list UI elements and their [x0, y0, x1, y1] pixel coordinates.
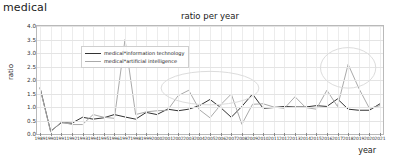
x-tick-label: 1995 — [98, 136, 109, 141]
legend-item[interactable]: medical*artificial intelligence — [85, 57, 184, 65]
x-tick-label: 2019 — [353, 136, 364, 141]
x-tick-label: 2011 — [268, 136, 279, 141]
x-tick-label: 2017 — [332, 136, 343, 141]
x-tick-label: 1993 — [77, 136, 88, 141]
x-tick-label: 2021 — [375, 136, 386, 141]
annotation-ellipse — [321, 48, 376, 89]
y-tick-label: 2.0 — [2, 77, 36, 83]
x-tick-label: 2018 — [343, 136, 354, 141]
x-tick-label: 2012 — [279, 136, 290, 141]
x-tick-label: 2002 — [173, 136, 184, 141]
x-tick-label: 2013 — [290, 136, 301, 141]
annotation-ellipses — [37, 26, 383, 134]
x-tick-label: 1990 — [45, 136, 56, 141]
plot-area: medical*information technologymedical*ar… — [36, 25, 384, 135]
x-axis-label: year — [36, 146, 384, 155]
x-tick-label: 1997 — [120, 136, 131, 141]
x-tick-label: 2009 — [247, 136, 258, 141]
chart-figure: ratio per year ratio 0.00.51.01.52.02.53… — [0, 8, 396, 156]
y-tick-label: 1.0 — [2, 104, 36, 110]
x-tick-label: 2016 — [321, 136, 332, 141]
legend-line-swatch — [85, 53, 101, 54]
x-tick-label: 2008 — [236, 136, 247, 141]
y-axis-ticks: 0.00.51.01.52.02.53.03.54.0 — [0, 25, 36, 135]
x-tick-label: 1996 — [109, 136, 120, 141]
x-tick-label: 2004 — [194, 136, 205, 141]
x-tick-label: 2014 — [300, 136, 311, 141]
y-tick-label: 0.0 — [2, 131, 36, 137]
x-tick-label: 2015 — [311, 136, 322, 141]
x-tick-label: 2003 — [183, 136, 194, 141]
x-tick-label: 1991 — [56, 136, 67, 141]
x-tick-label: 1989 — [35, 136, 46, 141]
y-tick-label: 3.5 — [2, 37, 36, 43]
y-tick-label: 3.0 — [2, 50, 36, 56]
x-tick-label: 2005 — [205, 136, 216, 141]
x-tick-label: 2006 — [215, 136, 226, 141]
legend-label: medical*information technology — [104, 50, 184, 56]
x-tick-label: 1992 — [66, 136, 77, 141]
x-tick-label: 1994 — [88, 136, 99, 141]
y-tick-label: 4.0 — [2, 23, 36, 29]
x-tick-label: 2001 — [162, 136, 173, 141]
y-tick-label: 1.5 — [2, 91, 36, 97]
chart-title: ratio per year — [36, 11, 384, 21]
y-tick-label: 2.5 — [2, 64, 36, 70]
x-tick-label: 1998 — [130, 136, 141, 141]
legend-line-swatch — [85, 61, 101, 62]
x-tick-label: 2010 — [258, 136, 269, 141]
x-tick-label: 2007 — [226, 136, 237, 141]
chart-legend: medical*information technologymedical*ar… — [81, 46, 189, 68]
y-tick-label: 0.5 — [2, 118, 36, 124]
legend-item[interactable]: medical*information technology — [85, 49, 184, 57]
legend-label: medical*artificial intelligence — [104, 58, 177, 64]
annotation-ellipse — [161, 71, 259, 104]
x-tick-label: 1999 — [141, 136, 152, 141]
x-tick-label: 2000 — [151, 136, 162, 141]
x-tick-label: 2020 — [364, 136, 375, 141]
